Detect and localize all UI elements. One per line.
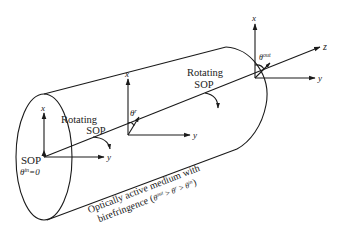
- middle-y-label: y: [192, 130, 197, 140]
- middle-theta-label: θr: [130, 108, 137, 118]
- z-axis-label: z: [322, 41, 327, 52]
- middle-x-label: x: [124, 69, 129, 79]
- left-y-label: y: [106, 152, 111, 162]
- right-theta-label: θout: [259, 52, 271, 62]
- right-rotating-label: Rotating: [187, 67, 224, 78]
- left-sop-label: SOP: [21, 154, 41, 166]
- middle-frame: x y θr Rotating SOP: [61, 69, 197, 149]
- z-axis: [44, 47, 320, 157]
- middle-sop-label: SOP: [86, 125, 105, 136]
- right-sop-label: SOP: [194, 79, 213, 90]
- left-x-label: x: [40, 103, 45, 113]
- middle-rotating-label: Rotating: [61, 114, 98, 125]
- theta-value: =0: [29, 167, 40, 177]
- left-theta-label: θin=0: [20, 167, 40, 177]
- right-rotation-arrow-icon: [205, 93, 218, 108]
- middle-theta-arc: [128, 122, 134, 126]
- right-y-label: y: [317, 73, 322, 83]
- medium-caption: Optically active medium with birefringen…: [86, 162, 206, 227]
- right-x-label: x: [251, 13, 256, 23]
- output-face-arc: [226, 47, 267, 149]
- left-sop-arrow-icon: [42, 150, 47, 156]
- optical-medium-diagram: z x y SOP θin=0 x y θr Rotating SOP x y: [0, 0, 342, 241]
- middle-rotation-arrow-icon: [93, 137, 110, 149]
- right-frame: x y θout Rotating SOP: [187, 13, 322, 108]
